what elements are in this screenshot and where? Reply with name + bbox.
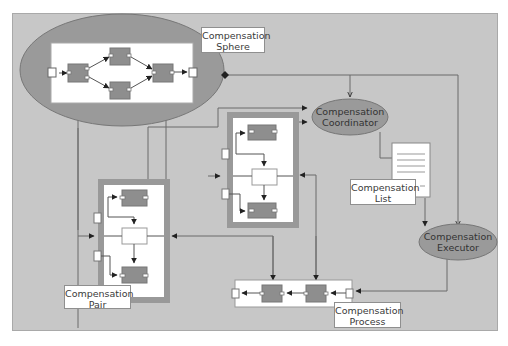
executor-to-process-arrow — [356, 259, 447, 291]
sphere-start-port — [48, 68, 56, 77]
process-start-port — [346, 289, 353, 298]
upper-pair-junction — [252, 169, 277, 185]
compensation-coordinator-label: Compensation Coordinator — [312, 106, 388, 128]
process-component-2 — [306, 285, 326, 302]
compensation-list-label: Compensation List — [350, 179, 416, 205]
diagram-canvas: Compensation Sphere Compensation Coordin… — [0, 0, 508, 346]
upper-pair-port-2 — [222, 189, 229, 199]
process-end-port — [232, 289, 239, 298]
compensation-executor-label: Compensation Executor — [420, 231, 496, 253]
pair-to-coordinator-link — [148, 127, 218, 182]
compensation-sphere-label: Compensation Sphere — [201, 27, 265, 53]
process-to-pair-arrow — [172, 236, 273, 280]
compensation-sphere[interactable] — [20, 14, 229, 126]
compensation-process-label: Compensation Process — [334, 302, 401, 328]
pair-port-1 — [94, 213, 101, 223]
process-component-1 — [262, 285, 282, 302]
compensation-pair-upper[interactable] — [222, 112, 299, 228]
compensation-pair-label: Compensation Pair — [64, 285, 131, 309]
pair-port-2 — [94, 251, 101, 261]
upper-pair-port-1 — [222, 149, 229, 159]
process-to-front-pair-arrow — [300, 175, 316, 280]
sphere-end-port — [189, 68, 197, 77]
pair-junction — [122, 228, 147, 244]
